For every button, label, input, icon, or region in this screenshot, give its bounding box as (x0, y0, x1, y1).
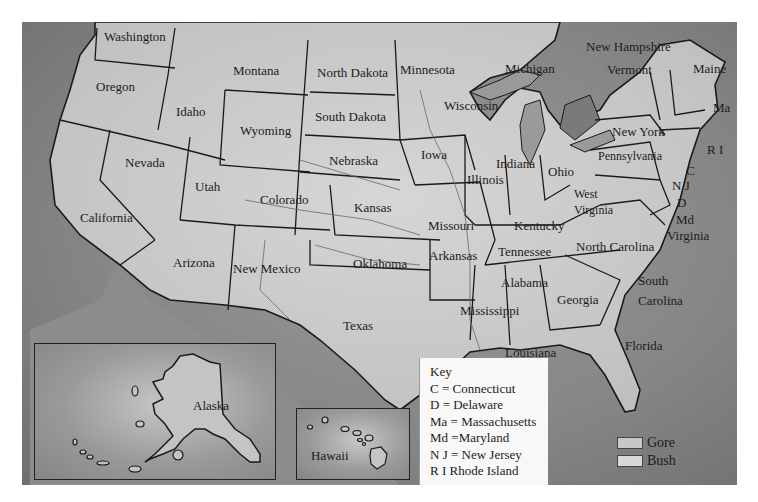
state-label-west-virginia-line2: Virginia (574, 203, 613, 217)
legend-label-gore: Gore (647, 435, 675, 451)
state-label-massachusetts[interactable]: Ma (713, 101, 730, 114)
state-label-virginia[interactable]: Virginia (667, 229, 709, 242)
key-item-connecticut: C = Connecticut (420, 381, 548, 398)
state-label-minnesota[interactable]: Minnesota (400, 63, 455, 76)
alaska-shape (35, 344, 275, 479)
alaska-inset: Alaska (34, 343, 276, 480)
state-label-montana[interactable]: Montana (233, 64, 279, 77)
state-label-connecticut[interactable]: C (686, 164, 695, 177)
state-label-delaware[interactable]: D (677, 196, 686, 209)
state-label-north-dakota[interactable]: North Dakota (317, 66, 388, 79)
state-label-kentucky[interactable]: Kentucky (514, 219, 565, 232)
state-label-west-virginia[interactable]: West Virginia (574, 186, 613, 218)
state-label-south-carolina-line2: Carolina (638, 293, 683, 308)
key-item-massachusetts: Ma = Massachusetts (420, 414, 548, 431)
state-label-florida[interactable]: Florida (625, 339, 663, 352)
state-label-nevada[interactable]: Nevada (125, 156, 165, 169)
state-label-washington[interactable]: Washington (104, 30, 166, 43)
state-label-pennsylvania[interactable]: Pennsylvania (598, 150, 662, 162)
state-label-oklahoma[interactable]: Oklahoma (353, 257, 407, 270)
candidate-legend: Gore Bush (617, 434, 676, 470)
state-label-alabama[interactable]: Alabama (501, 276, 548, 289)
state-label-nebraska[interactable]: Nebraska (329, 154, 378, 167)
state-label-wyoming[interactable]: Wyoming (240, 124, 291, 137)
state-label-maryland[interactable]: Md (676, 213, 694, 226)
us-election-map: Washington Oregon Idaho Montana Wyoming … (22, 22, 737, 485)
abbreviation-key: Key C = Connecticut D = Delaware Ma = Ma… (419, 358, 548, 485)
state-label-texas[interactable]: Texas (343, 319, 373, 332)
state-label-georgia[interactable]: Georgia (557, 293, 599, 306)
state-label-hawaii[interactable]: Hawaii (311, 449, 349, 462)
state-label-new-mexico[interactable]: New Mexico (233, 262, 301, 275)
key-item-new-jersey: N J = New Jersey (420, 447, 548, 464)
hawaii-shape (297, 409, 409, 479)
state-label-utah[interactable]: Utah (195, 180, 220, 193)
state-label-arkansas[interactable]: Arkansas (429, 249, 477, 262)
state-label-missouri[interactable]: Missouri (428, 219, 474, 232)
state-label-new-york[interactable]: New York (612, 125, 665, 138)
state-label-tennessee[interactable]: Tennessee (498, 245, 551, 258)
state-label-new-jersey[interactable]: N J (672, 179, 690, 192)
state-label-kansas[interactable]: Kansas (354, 201, 392, 214)
state-label-maine[interactable]: Maine (693, 62, 726, 75)
gore-swatch (617, 437, 643, 449)
key-item-rhode-island: R I Rhode Island (420, 463, 548, 480)
key-title: Key (420, 358, 548, 381)
key-item-maryland: Md =Maryland (420, 430, 548, 447)
state-label-south-dakota[interactable]: South Dakota (315, 110, 386, 123)
legend-label-bush: Bush (647, 453, 676, 469)
state-label-south-carolina-line1: South (638, 273, 668, 288)
state-label-colorado[interactable]: Colorado (260, 193, 308, 206)
hawaii-inset: Hawaii (296, 408, 410, 480)
state-label-california[interactable]: California (80, 211, 133, 224)
state-label-alaska[interactable]: Alaska (193, 399, 229, 412)
state-label-south-carolina[interactable]: South Carolina (638, 271, 683, 311)
state-label-oregon[interactable]: Oregon (96, 80, 135, 93)
bush-swatch (617, 455, 643, 467)
state-label-indiana[interactable]: Indiana (496, 157, 535, 170)
state-label-iowa[interactable]: Iowa (421, 148, 447, 161)
state-label-mississippi[interactable]: Mississippi (460, 304, 519, 317)
state-label-wisconsin[interactable]: Wisconsin (444, 99, 498, 112)
state-label-north-carolina[interactable]: North Carolina (576, 240, 654, 253)
state-label-new-hampshire[interactable]: New Hampshire (586, 40, 671, 53)
state-label-illinois[interactable]: Illinois (467, 173, 504, 186)
state-label-arizona[interactable]: Arizona (173, 256, 215, 269)
key-item-delaware: D = Delaware (420, 397, 548, 414)
state-label-rhode-island[interactable]: R I (707, 143, 723, 156)
state-label-idaho[interactable]: Idaho (176, 105, 206, 118)
state-label-michigan[interactable]: Michigan (505, 62, 555, 75)
state-label-vermont[interactable]: Vermont (607, 63, 652, 76)
legend-item-bush: Bush (617, 452, 676, 470)
state-label-ohio[interactable]: Ohio (548, 165, 574, 178)
state-label-west-virginia-line1: West (574, 187, 598, 201)
legend-item-gore: Gore (617, 434, 676, 452)
